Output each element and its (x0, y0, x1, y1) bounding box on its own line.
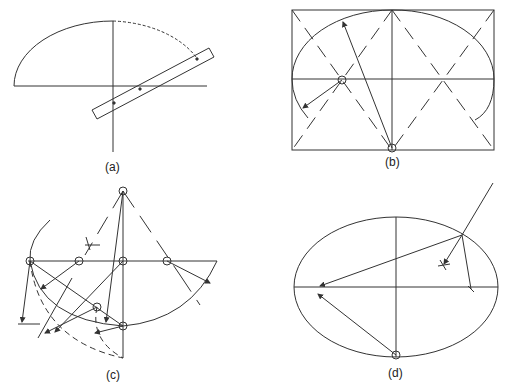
caption-b: (b) (385, 155, 400, 169)
ellipse-upper (292, 10, 494, 120)
caption-a: (a) (105, 160, 120, 174)
panel-c (18, 187, 217, 358)
ellipse-left-lower (292, 79, 308, 118)
caption-c: (c) (106, 368, 120, 382)
ellipse-arc-dashed (113, 21, 196, 57)
diagram-canvas (0, 0, 509, 390)
caption-d: (d) (388, 366, 403, 380)
bounding-rectangle (292, 10, 494, 150)
ellipse-arc-solid (14, 21, 113, 86)
panel-a (14, 21, 214, 152)
upper-arc (30, 220, 50, 261)
panel-d (294, 183, 498, 359)
panel-b (292, 10, 494, 152)
